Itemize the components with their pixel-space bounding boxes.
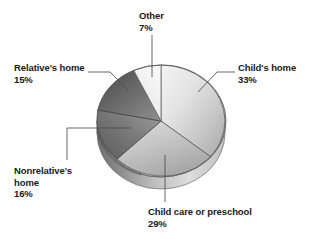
pie-label-child-care: Child care or preschool 29% [148, 206, 252, 229]
pie-label-childs-home: Child's home 33% [238, 62, 296, 85]
pie-label-childs-home-name: Child's home [238, 62, 296, 73]
pie-label-relatives-home: Relative's home 15% [14, 62, 84, 85]
pie-label-childs-home-percent: 33% [238, 74, 296, 86]
pie-label-other-percent: 7% [139, 22, 164, 34]
pie-label-nonrelatives-home-percent: 16% [14, 188, 72, 200]
pie-label-nonrelatives-home: Nonrelative's home 16% [14, 165, 72, 200]
pie-label-other-name: Other [139, 10, 164, 21]
pie-label-relatives-home-percent: 15% [14, 74, 84, 86]
pie-label-relatives-home-name: Relative's home [14, 62, 84, 73]
pie-label-other: Other 7% [139, 10, 164, 33]
pie-label-child-care-percent: 29% [148, 218, 252, 230]
pie-chart-graphic [0, 0, 317, 239]
pie-label-nonrelatives-home-name-line2: home [14, 177, 72, 189]
pie-label-nonrelatives-home-name-line1: Nonrelative's [14, 165, 72, 176]
pie-chart-figure: Other 7% Child's home 33% Relative's hom… [0, 0, 317, 239]
pie-label-child-care-name: Child care or preschool [148, 206, 252, 217]
